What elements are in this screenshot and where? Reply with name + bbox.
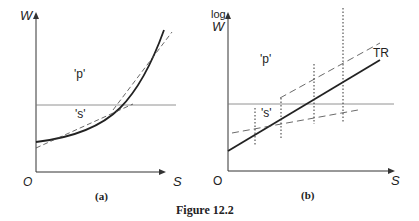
tr-line	[228, 60, 380, 151]
lower-bound-dashed-b	[232, 110, 358, 133]
figure-caption: Figure 12.2	[176, 203, 234, 217]
origin-label-a: O	[23, 175, 32, 189]
x-axis-label-a: S	[173, 174, 182, 189]
y-axis-label-b-w: W	[212, 19, 226, 34]
y-axis-arrow-icon	[33, 12, 39, 19]
region-label-s-a: 's'	[75, 107, 86, 121]
tangent-high-a	[113, 32, 172, 110]
region-label-p-b: 'p'	[260, 52, 271, 66]
panel-b: log W O S 'p' 's' TR (b)	[211, 8, 400, 202]
panel-label-a: (a)	[95, 190, 108, 203]
region-label-s-b: 's'	[261, 106, 272, 120]
x-axis-label-b: S	[391, 173, 400, 188]
convex-curve-a	[36, 30, 164, 142]
y-axis-label-a: W	[20, 8, 34, 23]
region-label-p-a: 'p'	[74, 67, 85, 81]
tr-label: TR	[373, 46, 389, 60]
x-axis-arrow-icon	[159, 169, 166, 175]
figure-canvas: W O S 'p' 's' (a) log W O S 'p' 's' TR (…	[0, 0, 419, 221]
panel-a: W O S 'p' 's' (a)	[20, 8, 182, 203]
panel-label-b: (b)	[301, 189, 315, 202]
origin-label-b: O	[213, 174, 222, 188]
y-axis-arrow-icon	[225, 12, 231, 19]
